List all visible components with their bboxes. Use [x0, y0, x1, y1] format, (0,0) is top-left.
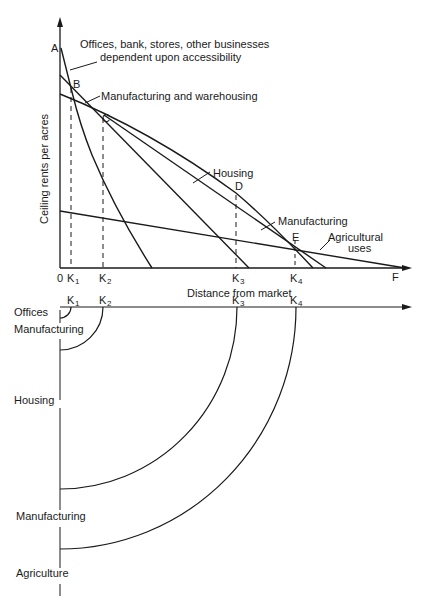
- y-axis-title: Ceiling rents per acres: [38, 113, 50, 224]
- offices-label-line2: dependent upon accessibility: [100, 51, 242, 63]
- lower-x-axis-arrow-icon: [402, 304, 412, 310]
- lower-k2-tick-label: K 2: [99, 294, 112, 308]
- upper-bid-rent-chart: A B C D E F Offices, bank, stores, other…: [38, 17, 412, 299]
- offices-leader-line: [70, 62, 97, 70]
- zone-label-offices: Offices: [14, 306, 49, 318]
- origin-label: 0: [57, 272, 63, 284]
- k1-tick-label: K 1: [67, 272, 80, 286]
- agricultural-label-line2: uses: [348, 242, 372, 254]
- housing-curve: [60, 94, 313, 268]
- svg-text:4: 4: [298, 299, 303, 308]
- offices-label-line1: Offices, bank, stores, other businesses: [80, 38, 270, 50]
- manufacturing-outer-zone-arc: [60, 307, 296, 549]
- svg-text:1: 1: [75, 299, 80, 308]
- k2-tick-label: K 2: [99, 272, 112, 286]
- zone-label-housing: Housing: [14, 394, 54, 406]
- y-axis-arrow-icon: [57, 17, 63, 27]
- lower-land-use-zones: K 1 K 2 K 3 K 4 Offices Manufacturing Ho…: [14, 294, 412, 596]
- lower-k4-tick-label: K 4: [290, 294, 303, 308]
- svg-text:3: 3: [240, 299, 245, 308]
- point-e-label: E: [292, 231, 299, 243]
- point-d-label: D: [235, 180, 243, 192]
- point-c-label: C: [102, 112, 110, 124]
- svg-text:K: K: [290, 294, 298, 306]
- svg-text:1: 1: [75, 277, 80, 286]
- svg-text:3: 3: [240, 277, 245, 286]
- svg-text:2: 2: [107, 277, 112, 286]
- svg-text:K: K: [232, 272, 240, 284]
- housing-zone-arc: [60, 307, 237, 489]
- point-b-label: B: [73, 78, 80, 90]
- svg-text:K: K: [232, 294, 240, 306]
- point-f-label: F: [392, 271, 399, 283]
- point-a-label: A: [51, 42, 59, 54]
- zone-label-agriculture: Agriculture: [16, 567, 69, 579]
- svg-text:K: K: [290, 272, 298, 284]
- svg-text:K: K: [99, 294, 107, 306]
- lower-k1-tick-label: K 1: [67, 294, 80, 308]
- bid-rent-diagram: A B C D E F Offices, bank, stores, other…: [0, 0, 422, 609]
- k3-tick-label: K 3: [232, 272, 245, 286]
- zone-label-manufacturing-outer: Manufacturing: [16, 510, 86, 522]
- zone-label-manufacturing-inner: Manufacturing: [14, 323, 84, 335]
- svg-text:K: K: [67, 272, 75, 284]
- offices-zone-arc: [60, 307, 71, 318]
- k4-tick-label: K 4: [290, 272, 303, 286]
- manufacturing-warehousing-label: Manufacturing and warehousing: [101, 90, 258, 102]
- svg-text:K: K: [99, 272, 107, 284]
- manufacturing-label: Manufacturing: [278, 215, 348, 227]
- svg-text:4: 4: [298, 277, 303, 286]
- svg-text:2: 2: [107, 299, 112, 308]
- svg-text:K: K: [67, 294, 75, 306]
- manufacturing-warehousing-leader-line: [85, 96, 100, 103]
- housing-label: Housing: [213, 167, 253, 179]
